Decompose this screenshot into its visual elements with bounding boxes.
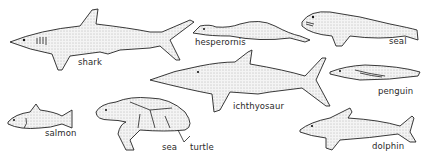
label-hesperornis: hesperornis [195,37,246,47]
label-ichthyosaur: ichthyosaur [233,101,284,111]
label-sea: sea [162,142,177,152]
label-seal: seal [389,36,407,46]
label-penguin: penguin [378,86,413,96]
label-shark: shark [78,57,102,67]
label-salmon: salmon [45,128,76,138]
illustration: shark hesperornis seal ichthyosaur pengu… [0,0,425,153]
shark-drawing [10,9,194,70]
label-turtle: turtle [190,142,214,152]
salmon-drawing [8,104,72,129]
penguin-drawing [330,65,420,80]
label-dolphin: dolphin [372,141,404,151]
